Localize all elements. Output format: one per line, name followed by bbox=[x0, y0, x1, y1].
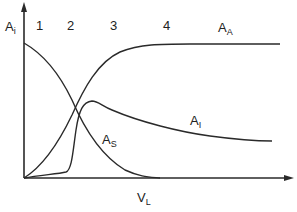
x-axis-arrow-icon bbox=[284, 175, 294, 181]
region-label-1: 1 bbox=[36, 19, 43, 32]
region-label-4: 4 bbox=[163, 19, 170, 32]
region-label-3: 3 bbox=[110, 19, 117, 32]
curve-a-a bbox=[24, 44, 280, 178]
y-axis-label: Ai bbox=[5, 20, 16, 36]
curve-a-s bbox=[24, 43, 160, 178]
curve-a-i bbox=[24, 101, 272, 178]
curve-label-a-s: AS bbox=[102, 133, 117, 149]
curve-label-a-i: AI bbox=[190, 114, 201, 130]
x-axis-label: VL bbox=[137, 191, 151, 207]
diagram: Ai 1 2 3 4 AA AI AS VL bbox=[0, 0, 297, 212]
region-label-2: 2 bbox=[67, 19, 74, 32]
curve-label-a-a: AA bbox=[218, 21, 233, 37]
y-axis-arrow-icon bbox=[21, 2, 27, 12]
plot-area bbox=[0, 0, 297, 212]
